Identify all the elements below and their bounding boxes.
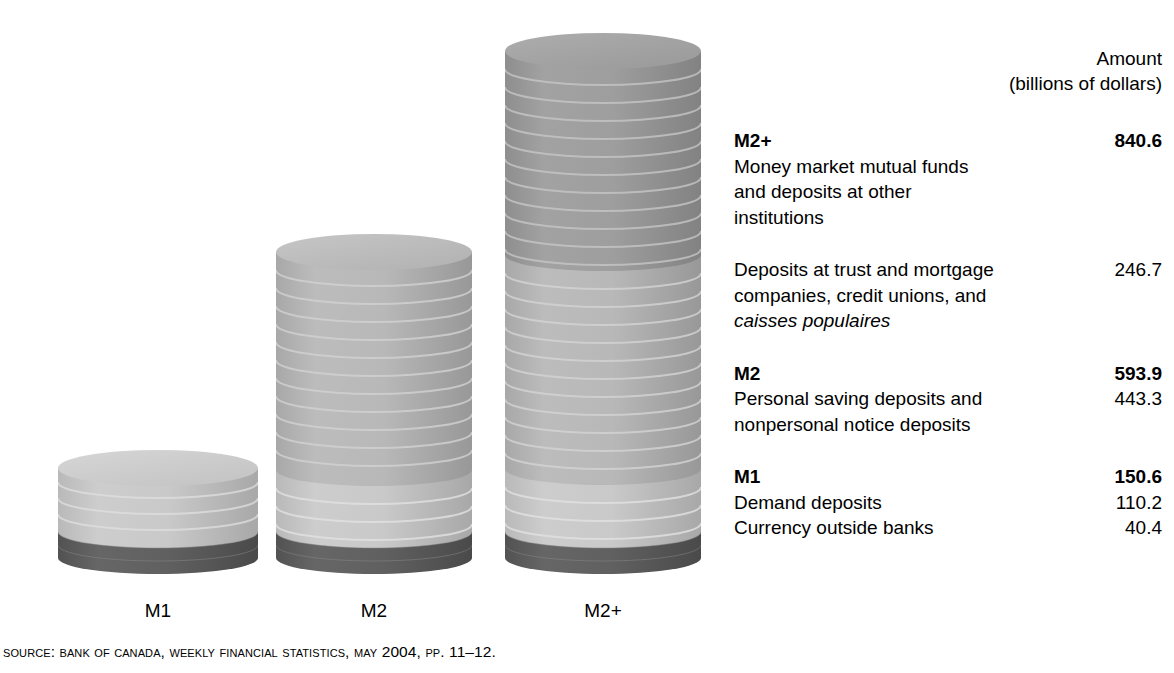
legend-row: nonpersonal notice deposits [734,412,1162,438]
legend-label: Currency outside banks [734,515,1054,541]
legend-row: M1 150.6 [734,464,1162,490]
legend-value: 150.6 [1054,464,1162,490]
cylinder-chart: M1 M2 M2+ [0,0,720,640]
source-pages: pp. 11–12. [425,643,496,660]
legend-value: 840.6 [1054,128,1162,154]
bar-m1-graphic [58,446,258,578]
legend-row: Personal saving deposits and 443.3 [734,386,1162,412]
legend-label: Demand deposits [734,490,1054,516]
legend-label: caisses populaires [734,308,1054,334]
legend-table: Amount (billions of dollars) M2+ 840.6 M… [734,46,1162,541]
legend-row: Currency outside banks 40.4 [734,515,1162,541]
legend-label: institutions [734,205,1054,231]
legend-value: 246.7 [1054,257,1162,283]
source-body: Bank of Canada, Weekly Financial Statist… [60,643,421,660]
legend-row: M2 593.9 [734,361,1162,387]
legend-row: institutions [734,205,1162,231]
bar-m2 [276,230,472,578]
source-note: Source: Bank of Canada, Weekly Financial… [3,643,496,661]
legend-label: nonpersonal notice deposits [734,412,1054,438]
legend-row: caisses populaires [734,308,1162,334]
legend-label: Personal saving deposits and [734,386,1054,412]
legend-row: and deposits at other [734,179,1162,205]
legend-header: Amount (billions of dollars) [734,46,1162,96]
legend-value: 40.4 [1054,515,1162,541]
bar-m1 [58,446,258,578]
legend-group-m2: M2 593.9 Personal saving deposits and 44… [734,361,1162,438]
legend-label: companies, credit unions, and [734,283,1054,309]
legend-label: and deposits at other [734,179,1054,205]
legend-row: Deposits at trust and mortgage 246.7 [734,257,1162,283]
bar-label-m1: M1 [58,600,258,622]
legend-row: companies, credit unions, and [734,283,1162,309]
legend-label: Deposits at trust and mortgage [734,257,1054,283]
legend-row: Money market mutual funds [734,154,1162,180]
legend-label: M1 [734,464,1054,490]
legend-label: M2+ [734,128,1054,154]
legend-row: M2+ 840.6 [734,128,1162,154]
amount-header-line1: Amount [734,46,1162,71]
legend-value: 110.2 [1054,490,1162,516]
legend-group-trust-mortgage: Deposits at trust and mortgage 246.7 com… [734,257,1162,334]
legend-group-m2plus: M2+ 840.6 Money market mutual funds and … [734,128,1162,230]
bar-m2-graphic [276,230,472,578]
bar-label-m2: M2 [276,600,472,622]
bar-m2plus [505,29,701,578]
source-prefix: Source: [3,643,55,660]
bar-m2plus-graphic [505,29,701,578]
legend-value: 443.3 [1054,386,1162,412]
legend-group-m1: M1 150.6 Demand deposits 110.2 Currency … [734,464,1162,541]
legend-value: 593.9 [1054,361,1162,387]
legend-row: Demand deposits 110.2 [734,490,1162,516]
legend-label: Money market mutual funds [734,154,1054,180]
amount-header-line2: (billions of dollars) [734,71,1162,96]
legend-label: M2 [734,361,1054,387]
bar-label-m2plus: M2+ [505,600,701,622]
